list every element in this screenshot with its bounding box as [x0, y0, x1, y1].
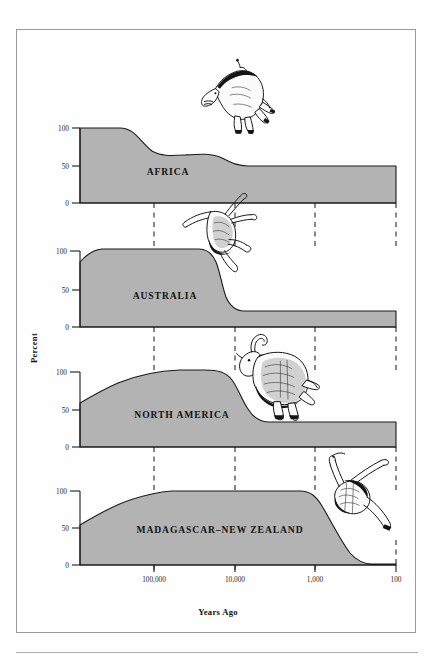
antelope-icon — [202, 59, 276, 134]
area-north-america — [80, 370, 396, 447]
y-tick-label-australia-0: 0 — [65, 323, 69, 332]
area-africa — [80, 128, 396, 203]
x-axis-title: Years Ago — [198, 607, 238, 617]
x-tick-label-1000: 1,000 — [307, 575, 324, 584]
panel-label-madagascar-new-zealand: MADAGASCAR–NEW ZEALAND — [136, 524, 303, 535]
y-tick-label-australia-50: 50 — [62, 286, 70, 295]
y-tick-label-australia-100: 100 — [56, 247, 67, 256]
y-tick-label-na-0: 0 — [65, 443, 69, 452]
y-tick-label-mad-0: 0 — [65, 561, 69, 570]
panel-australia: 100 50 0 AUSTRALIA — [56, 247, 396, 332]
area-australia — [80, 249, 396, 327]
y-tick-label-na-50: 50 — [62, 406, 70, 415]
panel-north-america: 100 50 0 NORTH AMERICA — [56, 368, 396, 452]
x-tick-label-10000: 10,000 — [225, 575, 245, 584]
panel-africa: 100 50 0 AFRICA — [58, 124, 396, 208]
moa-bird-icon — [329, 453, 391, 531]
y-tick-label-africa-0: 0 — [65, 199, 69, 208]
x-axis-ticks: 100,000 10,000 1,000 100 — [142, 565, 402, 584]
y-axis-title: Percent — [29, 333, 39, 363]
megafauna-extinction-chart: 100 50 0 AFRICA — [0, 0, 434, 665]
panel-label-africa: AFRICA — [147, 166, 190, 177]
panel-label-australia: AUSTRALIA — [133, 290, 198, 301]
y-tick-label-mad-50: 50 — [62, 524, 70, 533]
x-tick-label-100000: 100,000 — [142, 575, 166, 584]
figure-root: 100 50 0 AFRICA — [0, 0, 434, 665]
y-tick-label-mad-100: 100 — [56, 487, 67, 496]
y-tick-label-africa-50: 50 — [62, 162, 70, 171]
y-tick-label-na-100: 100 — [56, 368, 67, 377]
panel-label-north-america: NORTH AMERICA — [134, 409, 229, 420]
y-tick-label-africa-100: 100 — [58, 124, 69, 133]
mammoth-icon — [237, 334, 320, 420]
x-tick-label-100: 100 — [391, 575, 402, 584]
